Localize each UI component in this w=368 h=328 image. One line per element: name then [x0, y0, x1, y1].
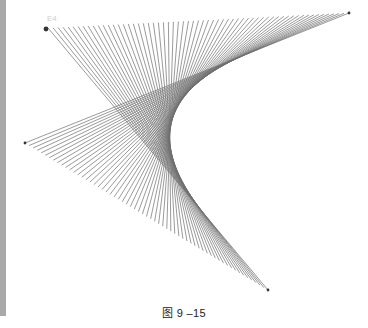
figure-caption: 图 9 –15 [0, 304, 368, 320]
envelope-line [49, 15, 319, 158]
envelope-line [78, 16, 284, 175]
envelope-line [70, 16, 294, 170]
envelope-line [53, 15, 314, 160]
point-top-left-icon [44, 27, 49, 32]
point-top-right-icon [348, 12, 351, 15]
faint-label: E4 [47, 14, 57, 23]
point-left-icon [24, 142, 27, 145]
envelope-line [86, 17, 274, 180]
envelope-line [45, 14, 324, 155]
envelope-line [102, 18, 254, 190]
envelope-line [94, 17, 264, 184]
envelope-lines [25, 13, 349, 290]
envelope-line [25, 13, 349, 143]
point-bottom-icon [267, 289, 270, 292]
envelope-line [98, 18, 259, 188]
string-art-envelope [0, 0, 368, 300]
envelope-line [37, 14, 334, 151]
control-points [24, 12, 351, 292]
envelope-line [62, 15, 304, 165]
envelope-line [41, 14, 329, 153]
envelope-line [90, 17, 269, 182]
